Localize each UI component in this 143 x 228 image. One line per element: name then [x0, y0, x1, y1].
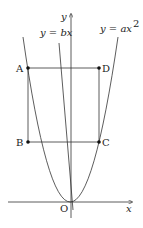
label-origin: O [60, 203, 68, 214]
point-A [26, 66, 30, 70]
label-parabola-exponent: 2 [133, 18, 139, 29]
label-parabola: y = ax [99, 23, 132, 34]
point-C [97, 140, 101, 144]
label-y-axis: y [60, 11, 67, 22]
label-C: C [102, 137, 110, 148]
diagram-canvas: A B C D O x y y = bx y = ax 2 [0, 0, 143, 228]
label-x-axis: x [126, 203, 132, 214]
label-line-bx: y = bx [39, 27, 73, 38]
label-A: A [15, 63, 24, 74]
label-B: B [16, 137, 23, 148]
label-D: D [102, 63, 110, 74]
point-D [97, 66, 101, 70]
point-B [26, 140, 30, 144]
